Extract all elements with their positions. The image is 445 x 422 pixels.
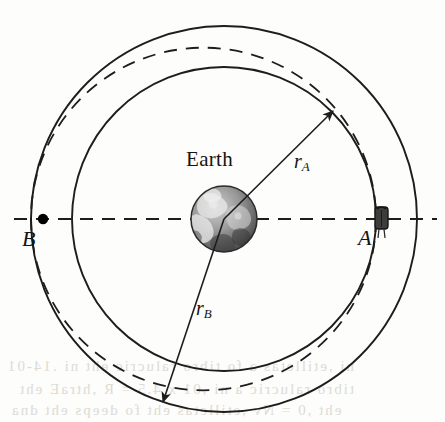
earth-label: Earth (186, 147, 233, 172)
radius-b-label: rB (196, 297, 212, 322)
point-a-label: A (358, 225, 371, 251)
point-b-marker (38, 214, 48, 224)
radius-b-base: r (196, 297, 204, 319)
point-b-label: B (22, 226, 35, 252)
figure-canvas: ni ,etilletas a fo tibro ralucric eht ni… (0, 0, 445, 422)
radius-b-subscript: B (204, 306, 212, 321)
radius-a-base: r (294, 150, 302, 172)
radius-a-subscript: A (302, 159, 310, 174)
radius-b-arrow (163, 219, 224, 402)
radius-a-arrow (224, 111, 333, 219)
orbit-diagram (0, 0, 445, 422)
satellite-marker (375, 207, 388, 238)
radius-a-label: rA (294, 150, 310, 175)
